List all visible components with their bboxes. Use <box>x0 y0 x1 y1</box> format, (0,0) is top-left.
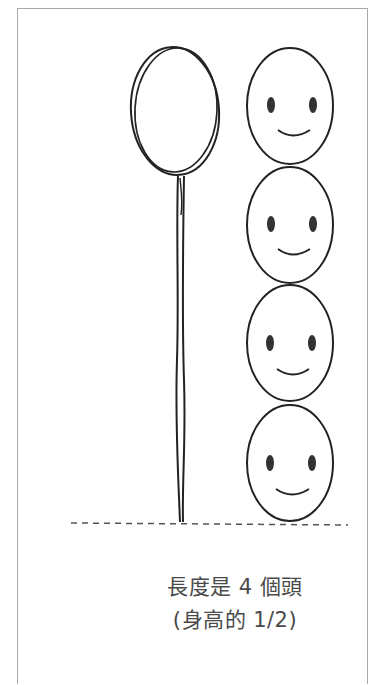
ground-dashed-line <box>71 523 348 525</box>
stick-icon <box>176 176 180 522</box>
smiley-face-icon-2 <box>247 167 333 283</box>
smiley-face-icon-1 <box>247 48 333 164</box>
smiley-face-icon-3 <box>247 285 333 401</box>
caption-line-2: (身高的 1/2) <box>120 603 350 633</box>
smiley-face-icon-4 <box>247 405 333 521</box>
caption-line-1: 長度是 4 個頭 <box>120 570 350 600</box>
oval-head-icon <box>127 44 224 178</box>
heads-column <box>247 48 333 521</box>
stick-figure <box>127 44 224 522</box>
